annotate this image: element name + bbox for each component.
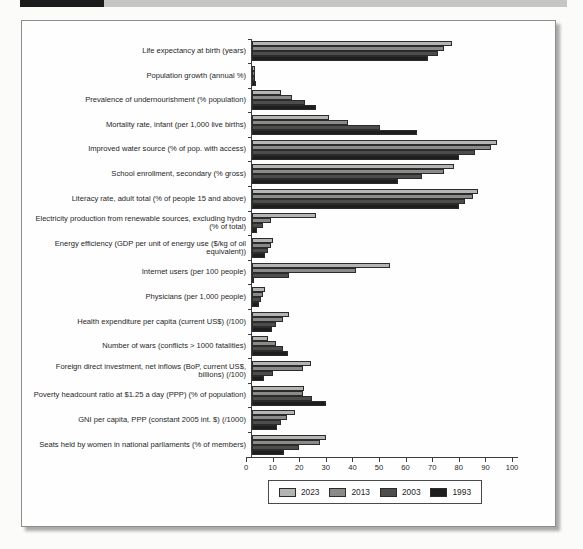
bar-group (251, 310, 532, 335)
x-axis-tick-label: 40 (348, 463, 356, 472)
category-label: Poverty headcount ratio at $1.25 a day (… (32, 391, 251, 399)
legend: 2023201320031993 (268, 480, 482, 504)
x-axis-tick-label: 20 (295, 463, 303, 472)
category-label: Electricity production from renewable so… (32, 215, 251, 232)
bar-2003 (252, 273, 289, 278)
category-label: Mortality rate, infant (per 1,000 live b… (32, 121, 251, 129)
bar-group (251, 433, 532, 458)
bar-1993 (252, 130, 417, 135)
x-axis-tick (485, 458, 486, 462)
bar-group (251, 162, 532, 187)
bar-1993 (252, 253, 265, 258)
bar-1993 (252, 401, 326, 406)
category-label: GNI per capita, PPP (constant 2005 int. … (32, 416, 251, 424)
category-row: GNI per capita, PPP (constant 2005 int. … (32, 408, 532, 433)
category-label: Prevalence of undernourishment (% popula… (32, 96, 251, 104)
category-label: Number of wars (conflicts > 1000 fatalit… (32, 342, 251, 350)
bar-1993 (252, 81, 256, 86)
bar-1993 (252, 327, 272, 332)
bar-group (251, 334, 532, 359)
bar-group (251, 64, 532, 89)
x-axis: 0102030405060708090100 (246, 457, 518, 458)
legend-item-1993: 1993 (430, 487, 471, 497)
bar-group (251, 260, 532, 285)
x-axis-tick-label: 100 (506, 463, 519, 472)
x-axis-tick-label: 50 (375, 463, 383, 472)
category-label: Literacy rate, adult total (% of people … (32, 195, 251, 203)
bar-group (251, 39, 532, 64)
category-row: Mortality rate, infant (per 1,000 live b… (32, 113, 532, 138)
category-label: Internet users (per 100 people) (32, 268, 251, 276)
page-header-black-bar (20, 0, 104, 7)
category-row: Seats held by women in national parliame… (32, 433, 532, 458)
category-row: Population growth (annual %) (32, 64, 532, 89)
bar-group (251, 408, 532, 433)
bar-1993 (252, 302, 259, 307)
x-axis-tick (379, 458, 380, 462)
bar-group (251, 236, 532, 261)
category-label: Foreign direct investment, net inflows (… (32, 363, 251, 380)
legend-swatch-icon (329, 488, 346, 497)
legend-label: 2023 (301, 487, 320, 497)
x-axis-tick (273, 458, 274, 462)
bar-1993 (252, 450, 284, 455)
bar-1993 (252, 376, 264, 381)
bar-group (251, 285, 532, 310)
category-row: Energy efficiency (GDP per unit of energ… (32, 236, 532, 261)
x-axis-tick (326, 458, 327, 462)
x-axis-tick-label: 10 (268, 463, 276, 472)
category-row: Electricity production from renewable so… (32, 211, 532, 236)
category-label: Population growth (annual %) (32, 72, 251, 80)
x-axis-tick-label: 0 (244, 463, 248, 472)
category-label: School enrollment, secondary (% gross) (32, 170, 251, 178)
category-label: Energy efficiency (GDP per unit of energ… (32, 240, 251, 257)
x-axis-tick-label: 30 (322, 463, 330, 472)
bar-group (251, 359, 532, 384)
legend-item-2003: 2003 (380, 487, 421, 497)
category-row: Poverty headcount ratio at $1.25 a day (… (32, 383, 532, 408)
bar-1993 (252, 425, 277, 430)
x-axis-tick (406, 458, 407, 462)
x-axis-tick-label: 90 (481, 463, 489, 472)
bar-1993 (252, 351, 288, 356)
x-axis-tick-label: 80 (455, 463, 463, 472)
bar-1993 (252, 179, 398, 184)
x-axis-tick (246, 458, 247, 462)
category-row: Foreign direct investment, net inflows (… (32, 359, 532, 384)
x-axis-tick (512, 458, 513, 462)
bar-group (251, 187, 532, 212)
legend-label: 2003 (402, 487, 421, 497)
chart-frame: Life expectancy at birth (years)Populati… (21, 20, 556, 527)
category-row: Improved water source (% of pop. with ac… (32, 137, 532, 162)
legend-label: 2013 (351, 487, 370, 497)
legend-item-2023: 2023 (279, 487, 320, 497)
category-row: Prevalence of undernourishment (% popula… (32, 88, 532, 113)
legend-swatch-icon (430, 488, 447, 497)
x-axis-tick (299, 458, 300, 462)
x-axis-tick (432, 458, 433, 462)
bar-group (251, 137, 532, 162)
legend-swatch-icon (380, 488, 397, 497)
category-label: Seats held by women in national parliame… (32, 441, 251, 449)
x-axis-tick (459, 458, 460, 462)
category-label: Physicians (per 1,000 people) (32, 293, 251, 301)
category-row: Number of wars (conflicts > 1000 fatalit… (32, 334, 532, 359)
category-row: Literacy rate, adult total (% of people … (32, 187, 532, 212)
bar-1993 (252, 228, 257, 233)
category-row: Health expenditure per capita (current U… (32, 310, 532, 335)
bar-1993 (252, 204, 459, 209)
category-row: Physicians (per 1,000 people) (32, 285, 532, 310)
bar-group (251, 383, 532, 408)
x-axis-tick (352, 458, 353, 462)
bar-chart-rows: Life expectancy at birth (years)Populati… (32, 39, 532, 457)
bar-group (251, 211, 532, 236)
bar-1993 (252, 155, 459, 160)
category-label: Health expenditure per capita (current U… (32, 318, 251, 326)
category-row: Internet users (per 100 people) (32, 260, 532, 285)
bar-group (251, 88, 532, 113)
page-header-gray-strip (104, 0, 567, 7)
x-axis-tick-label: 60 (401, 463, 409, 472)
bar-1993 (252, 56, 428, 61)
bar-group (251, 113, 532, 138)
category-row: Life expectancy at birth (years) (32, 39, 532, 64)
